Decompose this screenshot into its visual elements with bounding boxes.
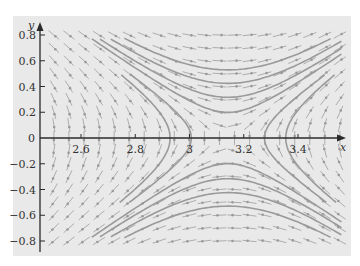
x-tick-label: 2.6 bbox=[72, 143, 90, 156]
y-tick-label: −0.6 bbox=[9, 209, 36, 222]
x-tick-label: 3.4 bbox=[289, 143, 307, 156]
y-tick-label: 0 bbox=[28, 132, 35, 145]
y-tick-label: −0.8 bbox=[9, 235, 36, 248]
y-tick-label: −0.2 bbox=[9, 158, 36, 171]
x-axis-label: x bbox=[340, 141, 347, 154]
y-tick-label: 0.6 bbox=[19, 55, 37, 68]
y-tick-label: 0.2 bbox=[19, 106, 37, 119]
plot-background bbox=[13, 16, 351, 256]
phase-portrait-chart: x y 2.62.833.23.40.80.60.40.20−0.2−0.4−0… bbox=[0, 0, 360, 266]
y-tick-label: 0.4 bbox=[19, 81, 37, 94]
x-tick-label: 3 bbox=[186, 143, 193, 156]
x-tick-label: 2.8 bbox=[127, 143, 145, 156]
y-tick-label: −0.4 bbox=[9, 184, 36, 197]
x-tick-label: 3.2 bbox=[235, 143, 253, 156]
y-tick-label: 0.8 bbox=[19, 29, 37, 42]
